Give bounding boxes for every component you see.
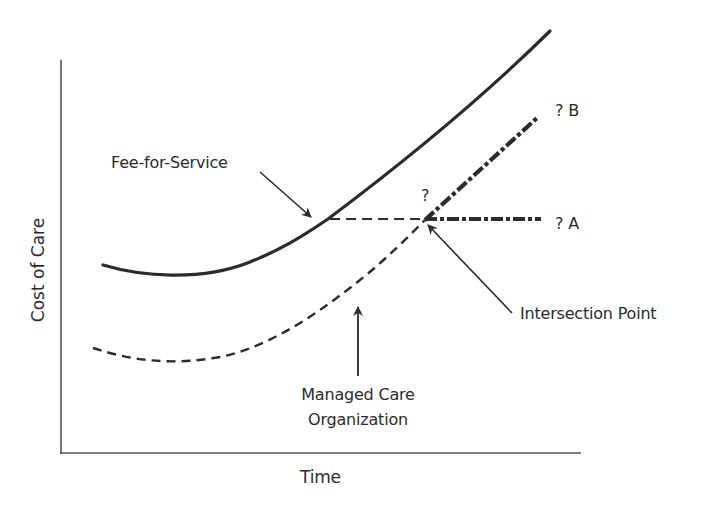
intersection-point-label: Intersection Point <box>520 304 656 324</box>
managed-care-label: Managed Care Organization <box>280 382 436 432</box>
x-axis-label: Time <box>300 467 341 487</box>
managed-care-label-line2: Organization <box>280 407 436 432</box>
fee-for-service-arrow <box>260 172 311 217</box>
projection-b-line <box>425 118 537 220</box>
y-axis-label: Cost of Care <box>28 218 48 322</box>
option-a-label: ? A <box>555 214 579 234</box>
fee-for-service-label: Fee-for-Service <box>111 153 228 173</box>
question-mark-label: ? <box>421 186 429 206</box>
managed-care-curve <box>93 220 425 361</box>
managed-care-label-line1: Managed Care <box>280 382 436 407</box>
option-b-label: ? B <box>555 101 579 121</box>
intersection-point-arrow <box>428 225 512 313</box>
